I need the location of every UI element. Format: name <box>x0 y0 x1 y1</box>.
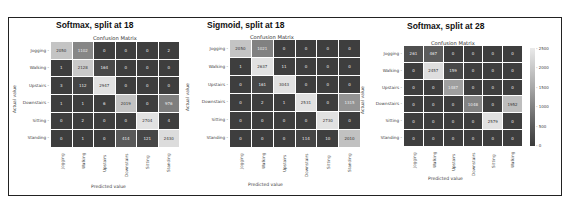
x-tick-label: Jogging <box>239 154 244 170</box>
matrix-cell: 0 <box>137 42 158 59</box>
matrix-cell: 1 <box>230 58 251 75</box>
matrix-cell: 0 <box>274 130 295 147</box>
matrix-cell: 2457 <box>424 63 443 79</box>
matrix-cell: 0 <box>116 113 137 130</box>
matrix-cell: 3043 <box>274 76 295 93</box>
matrix-cell: 0 <box>296 58 317 75</box>
matrix-cell: 2531 <box>296 94 317 111</box>
matrix-cell: 6 <box>94 95 115 112</box>
matrix-cell: 2430 <box>159 130 180 147</box>
matrix-title: Confusion Matrix <box>93 35 137 41</box>
matrix-cell: 2947 <box>94 77 115 94</box>
matrix-cell: 0 <box>230 112 251 129</box>
matrix-cell: 0 <box>404 113 423 129</box>
figure-frame: Softmax, split at 18 Confusion Matrix Ac… <box>8 17 562 196</box>
matrix-cell: 0 <box>483 46 502 62</box>
matrix-cell: 0 <box>317 58 338 75</box>
x-tick-label: Upstairs <box>102 155 107 172</box>
matrix-cell: 0 <box>424 130 443 146</box>
x-tick-label: Sitting <box>326 156 331 170</box>
matrix-cell: 467 <box>424 46 443 62</box>
panel-sigmoid-18: Sigmoid, split at 18 Confusion Matrix Ac… <box>187 18 367 195</box>
x-tick-label: Standing <box>166 153 171 172</box>
matrix-cell: 0 <box>339 40 360 57</box>
x-tick-label: Jogging <box>412 153 417 169</box>
matrix-cell: 0 <box>404 96 423 112</box>
y-tick-label: Standing - <box>28 135 50 140</box>
matrix-cell: 0 <box>483 130 502 146</box>
matrix-cell: 112 <box>73 77 94 94</box>
matrix-cell: 261 <box>404 46 423 62</box>
matrix-cell: 0 <box>483 96 502 112</box>
matrix-cell: 1102 <box>73 42 94 59</box>
matrix-cell: 0 <box>116 60 137 77</box>
matrix-cell: 164 <box>94 60 115 77</box>
matrix-cell: 2 <box>252 94 273 111</box>
matrix-cell: 0 <box>444 46 463 62</box>
matrix-cell: 0 <box>230 76 251 93</box>
matrix-cell: 0 <box>317 40 338 57</box>
y-tick-label: Jogging - <box>31 48 49 53</box>
matrix-cell: 0 <box>296 112 317 129</box>
matrix-cell: 0 <box>464 130 483 146</box>
matrix-cell: 0 <box>51 130 72 147</box>
x-tick-label: Upstairs <box>451 154 456 171</box>
matrix-cell: 0 <box>51 113 72 130</box>
matrix-cell: 0 <box>317 76 338 93</box>
matrix-cell: 0 <box>424 80 443 96</box>
matrix-cell: 0 <box>404 63 423 79</box>
colorbar <box>530 48 535 146</box>
matrix-cell: 2704 <box>137 113 158 130</box>
y-axis-label: Actual value <box>12 85 17 113</box>
x-tick-label: Sitting <box>145 156 150 170</box>
matrix-cell: 0 <box>230 130 251 147</box>
matrix-cell: 2579 <box>483 113 502 129</box>
panel-title: Sigmoid, split at 18 <box>207 20 284 30</box>
matrix-cell: 0 <box>464 80 483 96</box>
matrix-cell: 1315 <box>339 94 360 111</box>
y-axis-label: Actual value <box>185 83 190 111</box>
y-tick-label: Sitting - <box>386 118 402 123</box>
matrix-cell: 4 <box>159 113 180 130</box>
matrix-cell: 2128 <box>73 60 94 77</box>
matrix-cell: 0 <box>424 96 443 112</box>
matrix-cell: 0 <box>424 113 443 129</box>
matrix-cell: 1048 <box>464 96 483 112</box>
matrix-cell: 0 <box>339 112 360 129</box>
matrix-cell: 0 <box>404 80 423 96</box>
matrix-cell: 3 <box>51 77 72 94</box>
matrix-cell: 161 <box>252 76 273 93</box>
y-tick-label: Downstairs - <box>23 100 49 105</box>
matrix-cell: 1021 <box>252 40 273 57</box>
matrix-cell: 1 <box>73 95 94 112</box>
matrix-cell: 0 <box>483 63 502 79</box>
x-tick-label: Walking <box>261 153 266 170</box>
matrix-cell: 0 <box>137 77 158 94</box>
y-tick-label: Upstairs - <box>208 82 228 87</box>
y-tick-label: Walking - <box>383 68 402 73</box>
colorbar-tick: - 0 <box>536 143 541 148</box>
y-tick-label: Jogging - <box>384 51 402 56</box>
matrix-cell: 1 <box>51 60 72 77</box>
y-tick-label: Sitting - <box>212 117 228 122</box>
matrix-cell: 0 <box>137 95 158 112</box>
panel-softmax-28: Softmax, split at 28 Confusion Matrix Ac… <box>361 18 561 195</box>
x-tick-label: Standing <box>347 153 352 172</box>
matrix-cell: 1 <box>51 95 72 112</box>
y-tick-label: Standing - <box>207 135 229 140</box>
y-tick-label: Walking - <box>209 64 228 69</box>
y-tick-label: Jogging - <box>210 46 228 51</box>
matrix-cell: 0 <box>230 94 251 111</box>
matrix-cell: 2730 <box>317 112 338 129</box>
matrix-cell: 0 <box>94 113 115 130</box>
y-tick-label: Upstairs - <box>382 85 402 90</box>
y-axis-label: Actual value <box>360 86 365 114</box>
matrix-cell: 0 <box>159 60 180 77</box>
matrix-cell: 0 <box>94 42 115 59</box>
confusion-matrix-grid: 2614670000024571590000014870000001048019… <box>404 46 522 146</box>
matrix-cell: 0 <box>339 76 360 93</box>
matrix-cell: 114 <box>296 130 317 147</box>
matrix-cell: 0 <box>252 112 273 129</box>
matrix-cell: 0 <box>464 113 483 129</box>
matrix-cell: 1952 <box>503 96 522 112</box>
